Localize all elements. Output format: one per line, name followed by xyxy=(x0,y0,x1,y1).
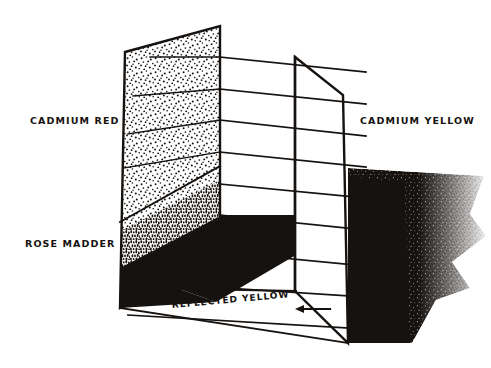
label-cadmium-red: CADMIUM RED xyxy=(30,115,119,126)
left-upright-panel xyxy=(112,10,230,320)
figure-root: CADMIUM RED ROSE MADDER CADMIUM YELLOW R… xyxy=(0,0,491,368)
label-cadmium-yellow: CADMIUM YELLOW xyxy=(360,115,475,126)
diagram-canvas: CADMIUM RED ROSE MADDER CADMIUM YELLOW R… xyxy=(0,0,491,368)
label-rose-madder: ROSE MADDER xyxy=(25,238,116,249)
shadow-solid-wedge xyxy=(348,176,410,343)
